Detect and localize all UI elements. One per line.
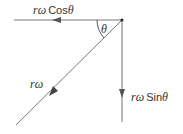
resultant-label: rω	[30, 77, 43, 91]
vertical-arrowhead-icon	[119, 89, 125, 98]
origin-point	[121, 19, 124, 22]
horizontal-label: rωCosθ	[33, 3, 74, 17]
angle-label: θ	[101, 22, 107, 36]
horizontal-arrowhead-icon	[52, 17, 61, 23]
vertical-label: rωSinθ	[131, 90, 168, 104]
vector-diagram: θ rωCosθ rω rωSinθ	[0, 0, 183, 134]
